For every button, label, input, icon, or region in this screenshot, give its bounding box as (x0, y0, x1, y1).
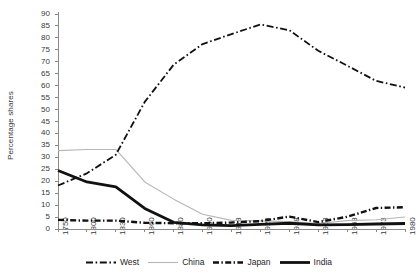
legend-swatch-west (86, 258, 116, 267)
legend-item-japan[interactable]: Japan (213, 258, 270, 267)
legend-item-china[interactable]: China (148, 258, 204, 267)
chart-container: Percentage shares 0510152025303540455055… (0, 0, 418, 280)
chart-legend: WestChinaJapanIndia (0, 258, 418, 267)
series-line-west (58, 25, 405, 186)
legend-item-west[interactable]: West (86, 258, 139, 267)
legend-swatch-india (280, 258, 310, 267)
series-line-india (58, 170, 405, 225)
plot-area (0, 0, 418, 280)
legend-label: West (120, 258, 139, 267)
data-series-group (58, 25, 405, 226)
legend-label: Japan (247, 258, 270, 267)
legend-item-india[interactable]: India (280, 258, 332, 267)
axes (55, 12, 405, 232)
legend-swatch-japan (213, 258, 243, 267)
legend-label: China (182, 258, 204, 267)
legend-swatch-china (148, 258, 178, 267)
legend-label: India (314, 258, 332, 267)
